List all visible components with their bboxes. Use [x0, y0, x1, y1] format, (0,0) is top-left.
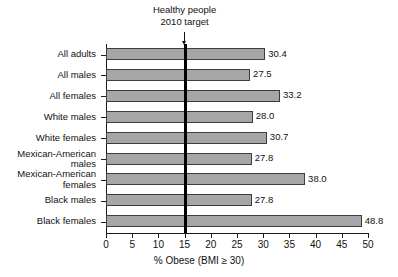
bar[interactable] — [106, 194, 252, 206]
x-tick — [211, 233, 212, 238]
plot-area: 30.427.533.228.030.727.838.027.848.8 — [106, 44, 368, 232]
x-tick — [263, 233, 264, 238]
category-label: White females — [10, 133, 96, 144]
bar-value-label: 33.2 — [283, 88, 302, 102]
category-label: Mexican-American females — [10, 169, 96, 190]
y-tick — [101, 180, 106, 181]
y-tick — [101, 75, 106, 76]
x-tick-label: 45 — [330, 239, 354, 251]
x-tick-label: 10 — [146, 239, 170, 251]
x-tick — [106, 233, 107, 238]
bar-row: 28.0 — [106, 107, 368, 128]
x-tick-label: 35 — [277, 239, 301, 251]
bar-row: 27.8 — [106, 190, 368, 211]
bar-value-label: 27.8 — [255, 193, 274, 207]
x-tick — [132, 233, 133, 238]
x-tick-label: 40 — [304, 239, 328, 251]
target-annotation: Healthy people 2010 target — [120, 4, 250, 27]
y-tick — [101, 117, 106, 118]
bar-value-label: 28.0 — [256, 109, 275, 123]
x-tick-label: 30 — [251, 239, 275, 251]
bar-row: 48.8 — [106, 211, 368, 232]
bar-value-label: 38.0 — [308, 172, 327, 186]
x-tick — [158, 233, 159, 238]
bar-row: 30.4 — [106, 44, 368, 65]
x-tick — [185, 233, 186, 238]
category-label: All adults — [10, 49, 96, 60]
x-tick — [368, 233, 369, 238]
bar[interactable] — [106, 173, 305, 185]
category-label: All females — [10, 91, 96, 102]
y-tick — [101, 96, 106, 97]
bar-value-label: 27.5 — [253, 67, 272, 81]
y-tick — [101, 201, 106, 202]
category-label: Black females — [10, 216, 96, 227]
bar-value-label: 48.8 — [365, 214, 384, 228]
target-annotation-line1: Healthy people — [120, 4, 250, 16]
bar-row: 30.7 — [106, 128, 368, 149]
bar-value-label: 30.4 — [268, 47, 287, 61]
x-tick — [289, 233, 290, 238]
category-label: White males — [10, 112, 96, 123]
x-tick-label: 25 — [225, 239, 249, 251]
x-tick-label: 50 — [356, 239, 380, 251]
x-tick-label: 15 — [173, 239, 197, 251]
bar[interactable] — [106, 153, 252, 165]
category-label: Mexican-American males — [10, 149, 96, 170]
category-label: All males — [10, 70, 96, 81]
bar-value-label: 30.7 — [270, 130, 289, 144]
x-tick-label: 5 — [120, 239, 144, 251]
bar[interactable] — [106, 215, 362, 227]
x-axis-title: % Obese (BMI ≥ 30) — [0, 255, 398, 266]
x-tick-label: 20 — [199, 239, 223, 251]
y-tick — [101, 55, 106, 56]
bar[interactable] — [106, 111, 253, 123]
x-tick — [316, 233, 317, 238]
obesity-bar-chart: Healthy people 2010 target 30.427.533.22… — [0, 0, 398, 277]
bar-row: 27.5 — [106, 65, 368, 86]
bar[interactable] — [106, 90, 280, 102]
bar-row: 33.2 — [106, 86, 368, 107]
x-tick-label: 0 — [94, 239, 118, 251]
bar-row: 27.8 — [106, 149, 368, 170]
bar-row: 38.0 — [106, 169, 368, 190]
category-label: Black males — [10, 195, 96, 206]
bar-value-label: 27.8 — [255, 151, 274, 165]
y-tick — [101, 159, 106, 160]
y-tick — [101, 222, 106, 223]
bar[interactable] — [106, 69, 250, 81]
x-tick — [237, 233, 238, 238]
target-annotation-line2: 2010 target — [120, 16, 250, 28]
healthy-people-2010-target-line — [184, 44, 187, 233]
x-tick — [342, 233, 343, 238]
y-tick — [101, 138, 106, 139]
